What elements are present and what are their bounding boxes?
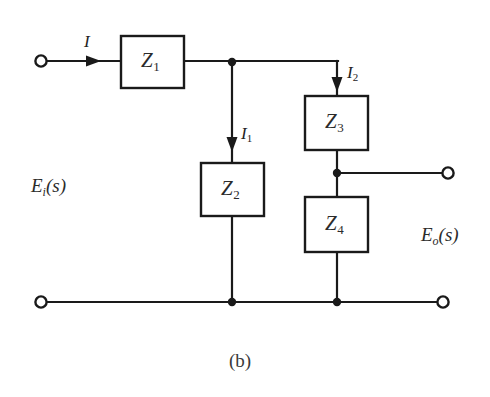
impedance-label-z3: Z3 bbox=[325, 111, 343, 132]
port-suffix-output: (s) bbox=[439, 224, 459, 245]
junction-dot-node-a bbox=[228, 58, 236, 66]
arrowhead-current-i2 bbox=[332, 77, 343, 92]
port-subscript-input: i bbox=[43, 185, 46, 199]
current-symbol-i: I bbox=[84, 32, 90, 51]
terminal-output-bottom bbox=[437, 296, 448, 307]
current-subscript-i1: 1 bbox=[247, 132, 253, 144]
current-label-i2: I2 bbox=[347, 64, 358, 81]
impedance-label-z1: Z1 bbox=[141, 50, 159, 71]
junction-dot-node-c bbox=[228, 298, 236, 306]
impedance-symbol-z3: Z bbox=[325, 109, 337, 133]
port-label-input-voltage: Ei(s) bbox=[31, 176, 66, 195]
port-label-output-voltage: Eo(s) bbox=[421, 225, 459, 244]
impedance-symbol-z2: Z bbox=[221, 176, 233, 200]
terminal-output-top bbox=[442, 167, 453, 178]
circuit-schematic-canvas bbox=[0, 0, 490, 397]
impedance-subscript-z2: 2 bbox=[233, 187, 240, 202]
terminal-input-bottom bbox=[35, 296, 46, 307]
port-suffix-input: (s) bbox=[46, 175, 66, 196]
impedance-label-z2: Z2 bbox=[221, 178, 239, 199]
impedance-subscript-z3: 3 bbox=[337, 120, 344, 135]
junction-dot-node-d bbox=[333, 298, 341, 306]
circuit-diagram-figure: Z1 Z2 Z3 Z4 I I1 I2 Ei(s) Eo(s) (b) bbox=[0, 0, 490, 397]
junction-dot-node-b bbox=[333, 169, 341, 177]
terminal-input-top bbox=[35, 55, 46, 66]
impedance-label-z4: Z4 bbox=[325, 213, 343, 234]
arrowhead-current-i bbox=[86, 56, 101, 67]
current-symbol-i1: I bbox=[241, 124, 247, 143]
impedance-symbol-z1: Z bbox=[141, 48, 153, 72]
arrowhead-current-i1 bbox=[227, 137, 238, 152]
impedance-subscript-z1: 1 bbox=[153, 59, 160, 74]
current-subscript-i2: 2 bbox=[353, 71, 359, 83]
port-symbol-input: E bbox=[31, 175, 43, 196]
impedance-symbol-z4: Z bbox=[325, 211, 337, 235]
figure-caption: (b) bbox=[229, 351, 251, 370]
current-label-i1: I1 bbox=[241, 125, 252, 142]
current-label-i: I bbox=[84, 33, 90, 50]
port-symbol-output: E bbox=[421, 224, 433, 245]
port-subscript-output: o bbox=[433, 234, 439, 248]
current-symbol-i2: I bbox=[347, 63, 353, 82]
impedance-subscript-z4: 4 bbox=[337, 222, 344, 237]
